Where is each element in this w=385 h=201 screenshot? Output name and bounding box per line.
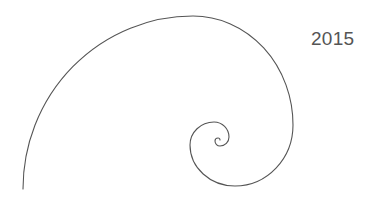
- year-label: 2015: [311, 28, 354, 50]
- spiral-curve: [23, 16, 293, 189]
